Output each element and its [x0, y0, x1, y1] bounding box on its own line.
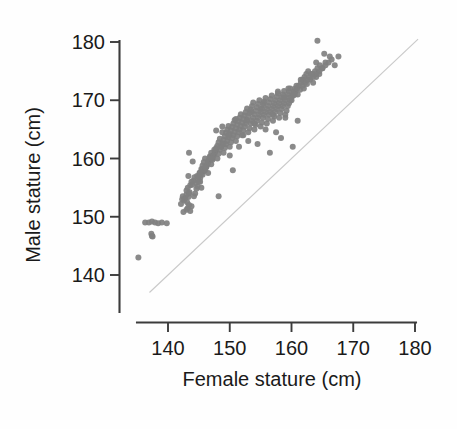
- data-point: [314, 38, 320, 44]
- data-point: [313, 59, 319, 65]
- y-tick-label: 170: [72, 89, 105, 111]
- data-point: [292, 91, 298, 97]
- data-point: [319, 65, 325, 71]
- x-tick-label: 140: [151, 337, 184, 359]
- data-point: [213, 128, 219, 134]
- x-tick-labels: 140150160170180: [151, 337, 431, 359]
- data-point: [321, 51, 327, 57]
- data-point: [233, 116, 239, 122]
- data-point: [310, 80, 316, 86]
- data-point: [230, 167, 236, 173]
- y-tick-label: 140: [72, 264, 105, 286]
- data-point: [327, 54, 333, 60]
- data-point: [251, 121, 257, 127]
- data-point: [186, 150, 192, 156]
- data-point: [263, 126, 269, 132]
- data-point: [185, 173, 191, 179]
- y-axis-group: 140150160170180 Male stature (cm): [22, 31, 120, 312]
- data-point: [298, 77, 304, 83]
- data-point: [211, 147, 217, 153]
- x-tick-label: 180: [398, 337, 431, 359]
- data-point: [316, 71, 322, 77]
- data-point: [236, 144, 242, 150]
- x-tick-label: 170: [337, 337, 370, 359]
- scatter-plot-figure: 140150160170180 Male stature (cm) 140150…: [0, 0, 457, 429]
- data-point: [240, 132, 246, 138]
- data-point: [205, 170, 211, 176]
- plot-canvas: 140150160170180 Male stature (cm) 140150…: [0, 0, 457, 429]
- y-axis-title: Male stature (cm): [22, 107, 44, 263]
- data-point: [226, 132, 232, 138]
- data-point: [248, 109, 254, 115]
- data-point: [281, 94, 287, 100]
- data-point: [135, 255, 141, 261]
- data-point: [245, 138, 251, 144]
- data-point: [335, 54, 341, 60]
- x-tick-label: 150: [213, 337, 246, 359]
- data-point: [285, 86, 291, 92]
- data-point: [219, 123, 225, 129]
- x-axis-title: Female stature (cm): [183, 368, 362, 390]
- data-point: [198, 185, 204, 191]
- data-point: [308, 71, 314, 77]
- y-tick-labels: 140150160170180: [72, 31, 105, 286]
- data-point: [273, 129, 279, 135]
- y-tick-label: 180: [72, 31, 105, 53]
- reference-line-group: [149, 39, 418, 292]
- data-point: [197, 179, 203, 185]
- data-point: [275, 89, 281, 95]
- data-point: [180, 209, 186, 215]
- data-point: [282, 115, 288, 121]
- data-point: [295, 118, 301, 124]
- data-point: [208, 156, 214, 162]
- identity-reference-line: [149, 39, 418, 292]
- y-tick-label: 160: [72, 148, 105, 170]
- data-point: [190, 158, 196, 164]
- data-point: [278, 135, 284, 141]
- data-point: [150, 234, 156, 240]
- data-point: [227, 153, 233, 159]
- data-point: [188, 203, 194, 209]
- data-point: [255, 141, 261, 147]
- data-point: [221, 141, 227, 147]
- data-point: [322, 59, 328, 65]
- x-tick-label: 160: [275, 337, 308, 359]
- data-points-group: [135, 38, 341, 261]
- data-point: [244, 118, 250, 124]
- data-point: [270, 112, 276, 118]
- x-tick-marks: [168, 323, 415, 333]
- data-point: [216, 193, 222, 199]
- data-point: [202, 164, 208, 170]
- x-axis-group: 140150160170180 Female stature (cm): [137, 323, 432, 391]
- data-point: [261, 100, 267, 106]
- data-point: [290, 144, 296, 150]
- data-point: [267, 150, 273, 156]
- data-point: [164, 220, 170, 226]
- y-tick-label: 150: [72, 206, 105, 228]
- data-point: [258, 106, 264, 112]
- y-tick-marks: [110, 42, 120, 275]
- data-point: [332, 62, 338, 68]
